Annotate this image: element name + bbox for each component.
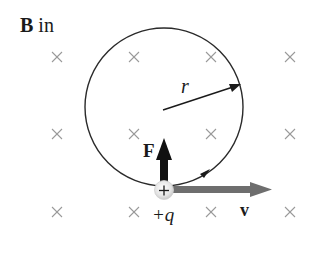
radius-arrow-icon [163, 84, 241, 110]
field-label: B in [20, 15, 54, 35]
x-mark-icon [52, 129, 62, 139]
x-mark-icon [129, 52, 139, 62]
field-direction: in [38, 14, 54, 36]
x-mark-icon [206, 52, 216, 62]
x-mark-icon [285, 207, 295, 217]
velocity-arrow-icon [170, 182, 272, 197]
field-symbol: B [20, 14, 33, 36]
radius-label: r [181, 76, 189, 96]
x-mark-icon [52, 207, 62, 217]
x-mark-icon [129, 129, 139, 139]
x-mark-icon [52, 52, 62, 62]
x-mark-icon [285, 52, 295, 62]
charge-label: +q [152, 205, 174, 224]
force-arrow-icon [156, 138, 172, 182]
velocity-label: v [240, 201, 249, 219]
magnetic-force-diagram: B in r F v +q [0, 0, 321, 263]
force-label: F [143, 141, 155, 160]
x-mark-icon [129, 207, 139, 217]
positive-charge-icon [155, 181, 174, 200]
x-mark-icon [206, 207, 216, 217]
x-mark-icon [206, 129, 216, 139]
x-mark-icon [285, 129, 295, 139]
